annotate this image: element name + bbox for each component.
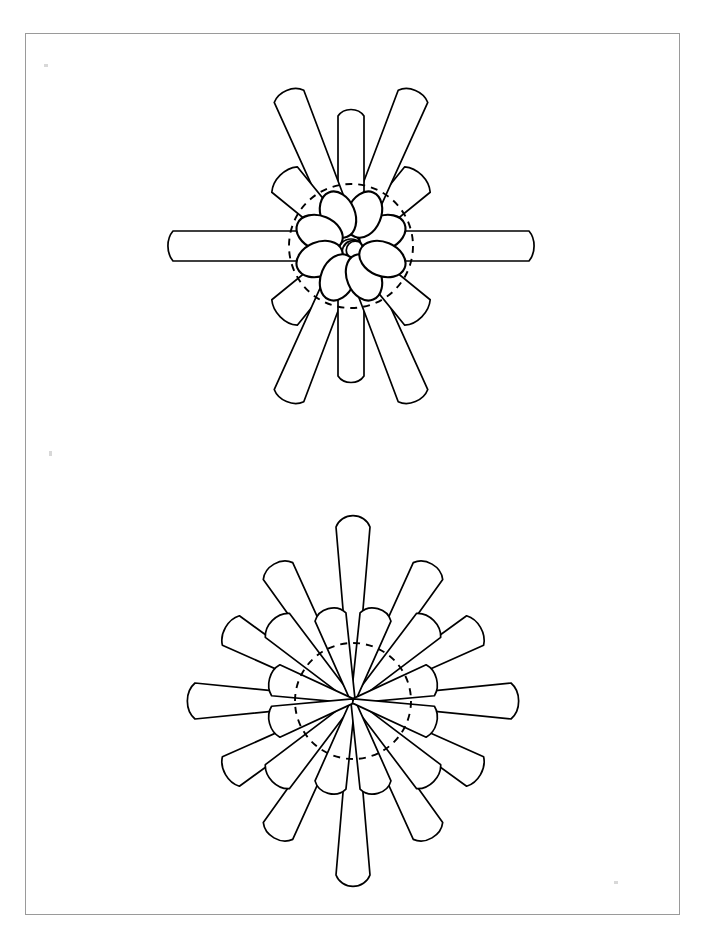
figure-bottom-ray-group bbox=[187, 516, 518, 887]
scan-speck-mid-left bbox=[49, 451, 52, 456]
scan-speck-bottom-right bbox=[614, 881, 618, 884]
plate-border bbox=[25, 33, 680, 915]
scan-speck-top-left bbox=[44, 64, 48, 67]
figure-bottom-radial-spicule bbox=[26, 34, 681, 916]
plate-page bbox=[0, 0, 705, 942]
